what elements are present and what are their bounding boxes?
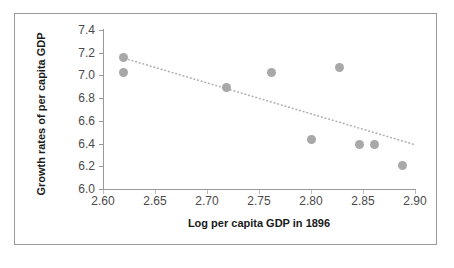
x-tick-label: 2.70 bbox=[187, 195, 227, 207]
x-tick-label: 2.90 bbox=[395, 195, 435, 207]
y-tick-label: 6.2 bbox=[61, 160, 95, 172]
x-tick-mark bbox=[415, 190, 416, 194]
y-tick-mark bbox=[99, 121, 104, 122]
x-tick-mark bbox=[207, 190, 208, 194]
y-tick-mark bbox=[99, 166, 104, 167]
x-tick-mark bbox=[363, 190, 364, 194]
y-tick-mark bbox=[99, 144, 104, 145]
scatter-point bbox=[398, 161, 407, 170]
x-tick-label: 2.80 bbox=[291, 195, 331, 207]
y-tick-label: 6.6 bbox=[61, 115, 95, 127]
y-tick-mark bbox=[99, 75, 104, 76]
scatter-point bbox=[119, 53, 128, 62]
trend-line bbox=[103, 30, 415, 189]
scatter-point bbox=[119, 68, 128, 77]
y-tick-label: 6.0 bbox=[61, 183, 95, 195]
chart-figure-frame: Growth rates of per capita GDP Log per c… bbox=[14, 13, 437, 245]
x-tick-label: 2.75 bbox=[239, 195, 279, 207]
x-tick-mark bbox=[155, 190, 156, 194]
y-tick-label: 7.2 bbox=[61, 47, 95, 59]
scatter-point bbox=[335, 63, 344, 72]
x-tick-label: 2.65 bbox=[135, 195, 175, 207]
y-tick-mark bbox=[99, 53, 104, 54]
y-tick-mark bbox=[99, 98, 104, 99]
y-tick-mark bbox=[99, 30, 104, 31]
y-tick-label: 7.0 bbox=[61, 69, 95, 81]
scatter-point bbox=[307, 135, 316, 144]
x-tick-label: 2.60 bbox=[83, 195, 123, 207]
x-tick-mark bbox=[103, 190, 104, 194]
x-axis-title: Log per capita GDP in 1896 bbox=[103, 217, 415, 229]
x-tick-label: 2.85 bbox=[343, 195, 383, 207]
y-tick-label: 6.4 bbox=[61, 138, 95, 150]
y-axis-title: Growth rates of per capita GDP bbox=[33, 26, 49, 202]
x-tick-mark bbox=[259, 190, 260, 194]
scatter-point bbox=[267, 68, 276, 77]
x-tick-mark bbox=[311, 190, 312, 194]
y-tick-label: 7.4 bbox=[61, 24, 95, 36]
y-tick-label: 6.8 bbox=[61, 92, 95, 104]
